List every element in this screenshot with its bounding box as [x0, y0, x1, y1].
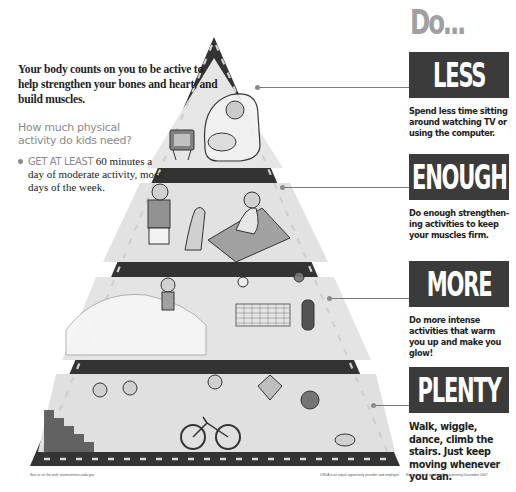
footer-web: See us on the web: teamnutrition.usda.go… [30, 473, 94, 477]
connector-dot-icon [280, 185, 285, 190]
level-more-box: MORE [409, 261, 509, 307]
tier-enough [103, 183, 328, 262]
bullet-icon [18, 159, 23, 164]
level-plenty-box: PLENTY [409, 367, 509, 413]
level-more: MORE Do more intense activities that war… [409, 261, 509, 359]
footer-equal-opportunity: USDA is an equal opportunity provider an… [320, 473, 400, 477]
level-enough-word: ENOUGH [412, 157, 507, 197]
level-less-description: Spend less time sitting around watching … [409, 106, 509, 139]
connector-less [258, 87, 409, 88]
connector-dot-icon [327, 296, 332, 301]
level-enough-box: ENOUGH [409, 154, 509, 200]
bullet-strong-text: GET AT LEAST [28, 156, 93, 167]
intro-bullet: GET AT LEAST 60 minutes a day of moderat… [18, 155, 168, 194]
level-enough-description: Do enough strengthen-ing activities to k… [409, 208, 509, 241]
footer-reprint: Reviewed and approved for reprinting Dec… [406, 473, 488, 477]
connector-plenty [374, 405, 409, 406]
level-plenty-word: PLENTY [417, 370, 500, 410]
connector-dot-icon [371, 403, 376, 408]
level-less: LESS Spend less time sitting around watc… [409, 52, 509, 139]
connector-more [330, 298, 409, 299]
level-plenty: PLENTY Walk, wiggle, dance, climb the st… [409, 367, 509, 484]
level-less-box: LESS [409, 52, 509, 98]
connector-dot-icon [255, 85, 260, 90]
intro-panel: Your body counts on you to be active to … [18, 62, 218, 194]
intro-lead-text: Your body counts on you to be active to … [18, 62, 218, 107]
level-enough: ENOUGH Do enough strengthen-ing activiti… [409, 154, 509, 241]
level-more-word: MORE [427, 264, 492, 304]
connector-enough [283, 187, 409, 188]
level-less-word: LESS [433, 55, 485, 95]
level-more-description: Do more intense activities that warm you… [409, 315, 509, 359]
do-heading: Do... [410, 2, 464, 42]
intro-question: How much physical activity do kids need? [18, 121, 158, 147]
